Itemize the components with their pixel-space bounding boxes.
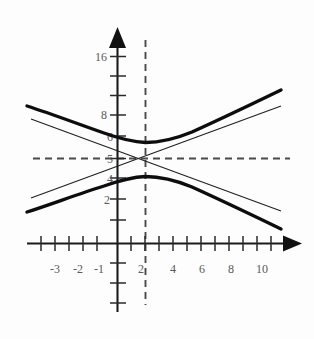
hyperbola-upper-branch (27, 90, 281, 143)
y-axis-up-arrow-icon (109, 27, 126, 48)
x-axis: -3 -2 -1 2 4 6 8 10 (27, 236, 302, 277)
x-tick-label-10: 10 (256, 262, 268, 276)
x-axis-right-arrow-icon (283, 236, 302, 252)
hyperbola-curves (27, 90, 281, 229)
hyperbola-figure: -3 -2 -1 2 4 6 8 10 (0, 0, 314, 339)
x-tick-label-2: 2 (138, 262, 144, 276)
y-tick-label-2: 2 (104, 193, 110, 207)
x-tick-label--1: -1 (94, 262, 104, 276)
x-tick-label-6: 6 (199, 262, 205, 276)
x-tick-label--2: -2 (73, 262, 83, 276)
x-tick-label-4: 4 (170, 262, 176, 276)
y-tick-label-8: 8 (101, 108, 107, 122)
y-tick-label-16: 16 (95, 50, 107, 64)
reference-lines (33, 40, 290, 305)
hyperbola-lower-branch (27, 177, 281, 230)
x-tick-label-8: 8 (228, 262, 234, 276)
x-tick-label--3: -3 (50, 262, 60, 276)
y-tick-label-5: 5 (107, 152, 113, 166)
plot-canvas: -3 -2 -1 2 4 6 8 10 (0, 0, 314, 339)
